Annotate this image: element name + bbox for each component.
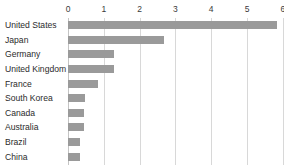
bar-united-kingdom xyxy=(68,65,114,73)
category-label: China xyxy=(5,152,27,162)
x-tick-label-1: 1 xyxy=(101,4,106,14)
bar-chart: 0123456 United StatesJapanGermanyUnited … xyxy=(0,0,284,165)
x-tick-label-0: 0 xyxy=(66,4,71,14)
bar-row: Brazil xyxy=(0,135,284,150)
plot-area: United StatesJapanGermanyUnited KingdomF… xyxy=(0,18,284,165)
bar-united-states xyxy=(68,21,277,29)
x-tick-label-5: 5 xyxy=(245,4,250,14)
category-label: South Korea xyxy=(5,93,53,103)
bar-brazil xyxy=(68,138,80,146)
x-tick-label-6: 6 xyxy=(280,4,284,14)
bar-south-korea xyxy=(68,94,85,102)
bar-japan xyxy=(68,36,164,44)
category-label: Japan xyxy=(5,35,28,45)
bar-row: Germany xyxy=(0,47,284,62)
category-label: United States xyxy=(5,20,57,30)
bar-rows: United StatesJapanGermanyUnited KingdomF… xyxy=(0,18,284,165)
x-tick-label-2: 2 xyxy=(137,4,142,14)
x-tick-label-4: 4 xyxy=(209,4,214,14)
category-label: Canada xyxy=(5,108,35,118)
bar-china xyxy=(68,153,80,161)
bar-germany xyxy=(68,50,114,58)
category-label: Brazil xyxy=(5,137,27,147)
bar-row: United States xyxy=(0,18,284,33)
category-label: Germany xyxy=(5,49,40,59)
bar-row: South Korea xyxy=(0,91,284,106)
bar-row: United Kingdom xyxy=(0,62,284,77)
bar-row: China xyxy=(0,149,284,164)
bar-row: France xyxy=(0,76,284,91)
bar-france xyxy=(68,80,98,88)
category-label: Australia xyxy=(5,122,38,132)
bar-canada xyxy=(68,109,84,117)
bar-row: Australia xyxy=(0,120,284,135)
bar-row: Japan xyxy=(0,33,284,48)
bar-australia xyxy=(68,123,84,131)
bar-row: Canada xyxy=(0,106,284,121)
category-label: United Kingdom xyxy=(5,64,66,74)
x-tick-label-3: 3 xyxy=(173,4,178,14)
category-label: France xyxy=(5,79,32,89)
x-axis-tick-labels: 0123456 xyxy=(0,0,284,18)
